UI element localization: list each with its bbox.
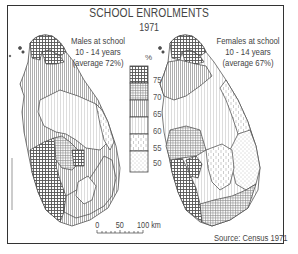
legend-tick-65: 65 [153, 109, 162, 119]
males-caption: Males at school 10 - 14 years (average 7… [65, 35, 131, 68]
legend-tick-70: 70 [153, 92, 162, 102]
females-caption: Females at school 10 - 14 years (average… [215, 35, 281, 68]
scale-label-50: 50 [116, 220, 124, 230]
legend-swatches [130, 66, 148, 172]
scale-bar [97, 230, 143, 233]
scale-label-0: 0 [95, 220, 99, 230]
legend-unit: % [145, 53, 152, 62]
legend-tick-75: 75 [153, 75, 162, 85]
source-note: Source: Census 1971 [214, 233, 288, 243]
legend-tick-55: 55 [153, 143, 162, 153]
legend-tick-50: 50 [153, 158, 162, 168]
legend-tick-60: 60 [153, 126, 162, 136]
scale-label-100km: 100 km [137, 220, 161, 230]
